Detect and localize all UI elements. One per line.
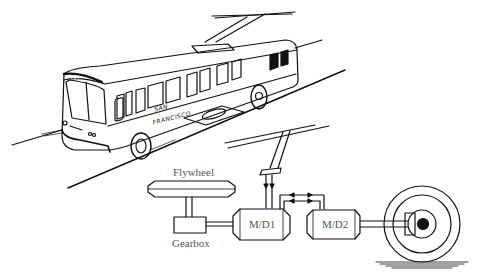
front-lamp-1 [89,133,92,136]
schematic-overhead-line-1 [225,125,315,143]
trolley-pole-2 [216,14,265,42]
headlight [63,121,67,125]
md2-label: M/D2 [322,218,348,230]
front-lamp-2 [93,134,96,137]
trolley-pole-1 [205,17,247,42]
arrow-left-2 [290,199,294,203]
link-line-inner [284,201,320,209]
gearbox-shape [174,217,206,233]
current-collector [260,168,281,175]
md1-label: M/D1 [249,218,275,230]
arrow-right-1 [308,193,312,197]
diagram-canvas: Flywheel Gearbox M/D1 M/D2 417 SAN FRANC… [0,0,479,273]
windshield-divider [86,82,89,120]
flywheel-label: Flywheel [173,166,214,178]
overhead-wire-2 [215,12,295,18]
front-grille [70,126,82,130]
bus-number: 417 [70,73,82,80]
arrow-left-1 [290,193,294,197]
wheel-axle [418,219,429,230]
arrow-down-2 [270,184,274,188]
arrow-right-2 [308,199,312,203]
road-edge-far-left [12,130,62,145]
bus-front-wheel [131,133,151,159]
road-edge-far-right [295,40,322,48]
wheel-ground [376,262,468,268]
diagram-svg [0,0,479,273]
trolleybus-illustration [12,12,345,188]
gearbox-label: Gearbox [172,237,210,249]
link-line-outer [280,195,324,209]
arrow-down-1 [264,184,268,188]
